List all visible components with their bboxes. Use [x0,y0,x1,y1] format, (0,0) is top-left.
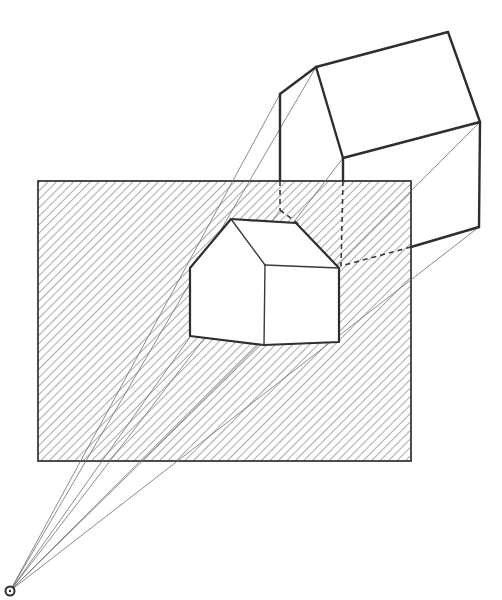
house-edge [316,67,343,158]
projected-house-edge [264,265,265,345]
house-edge [411,227,479,247]
station-point-icon [6,587,15,596]
house-edge [280,67,316,94]
house-edge [316,32,448,67]
perspective-diagram [0,0,502,600]
station-point-dot [9,590,11,592]
house-edge [343,122,480,158]
house-edge [448,32,480,122]
house-edge [479,122,480,227]
